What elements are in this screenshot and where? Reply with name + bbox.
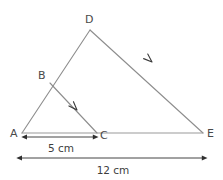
vertex-label-B: B	[38, 69, 46, 82]
vertex-label-C: C	[100, 129, 108, 142]
vertex-label-A: A	[10, 127, 18, 140]
dimension-label-ae: 12 cm	[97, 164, 130, 176]
geometry-canvas: A B C D E 5 cm 12 cm	[0, 0, 223, 180]
vertex-label-D: D	[85, 13, 93, 26]
dimension-label-ac: 5 cm	[48, 142, 74, 154]
geometry-figure: A B C D E 5 cm 12 cm	[0, 0, 223, 180]
vertex-label-E: E	[207, 127, 214, 140]
segment-D-E	[90, 30, 203, 133]
arrow-mark-de	[144, 54, 154, 64]
arrow-mark-bc	[69, 102, 79, 112]
segment-A-D	[22, 30, 90, 133]
